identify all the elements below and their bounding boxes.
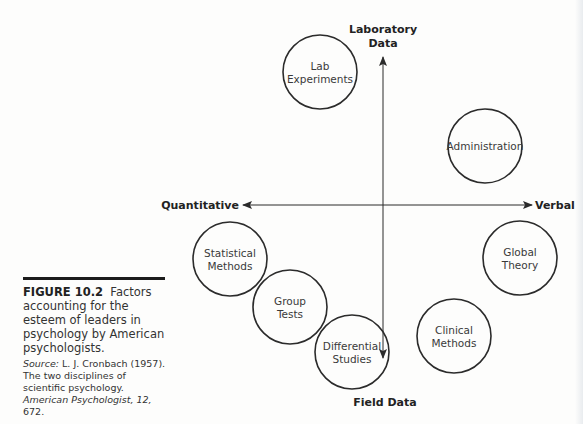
node-label: Theory	[501, 259, 538, 271]
axis-label-top-2: Data	[368, 37, 397, 50]
node-label: Lab	[311, 60, 330, 72]
source-article: The two disciplines of scientific psycho…	[23, 370, 126, 393]
source-prefix: Source:	[23, 358, 59, 369]
node-label: Differential	[323, 340, 381, 352]
axis-label-right: Verbal	[535, 199, 575, 212]
nodes-layer: LabExperimentsAdministrationStatisticalM…	[193, 35, 557, 389]
figure-caption: FIGURE 10.2 Factors accounting for the e…	[23, 277, 169, 418]
source-author: L. J. Cronbach (1957).	[62, 358, 165, 369]
caption-source: Source: L. J. Cronbach (1957). The two d…	[23, 358, 169, 418]
node-label: Methods	[432, 337, 477, 349]
node-label: Tests	[276, 308, 303, 320]
node-group-tests: GroupTests	[253, 270, 327, 344]
node-label: Studies	[333, 353, 372, 365]
axis-label-top: Laboratory	[349, 23, 417, 36]
source-page: 672.	[23, 406, 44, 417]
node-administration: Administration	[447, 109, 524, 183]
caption-title: FIGURE 10.2 Factors accounting for the e…	[23, 285, 169, 355]
node-label: Global	[503, 246, 537, 258]
node-clinical-methods: ClinicalMethods	[417, 299, 491, 373]
node-statistical-methods: StatisticalMethods	[193, 222, 267, 296]
node-lab-experiments: LabExperiments	[283, 35, 357, 109]
node-label: Experiments	[287, 73, 353, 85]
node-label: Methods	[208, 260, 253, 272]
node-label: Group	[274, 295, 306, 307]
node-label: Statistical	[204, 247, 256, 259]
axis-label-bottom: Field Data	[353, 396, 416, 409]
figure-number: FIGURE 10.2	[23, 285, 103, 299]
source-volume: 12,	[136, 394, 151, 405]
axis-label-left: Quantitative	[161, 199, 239, 212]
source-journal: American Psychologist,	[23, 394, 133, 405]
node-global-theory: GlobalTheory	[483, 221, 557, 295]
caption-rule	[23, 277, 165, 280]
node-label: Administration	[447, 140, 524, 152]
node-label: Clinical	[435, 324, 473, 336]
node-differential-studies: DifferentialStudies	[315, 315, 389, 389]
